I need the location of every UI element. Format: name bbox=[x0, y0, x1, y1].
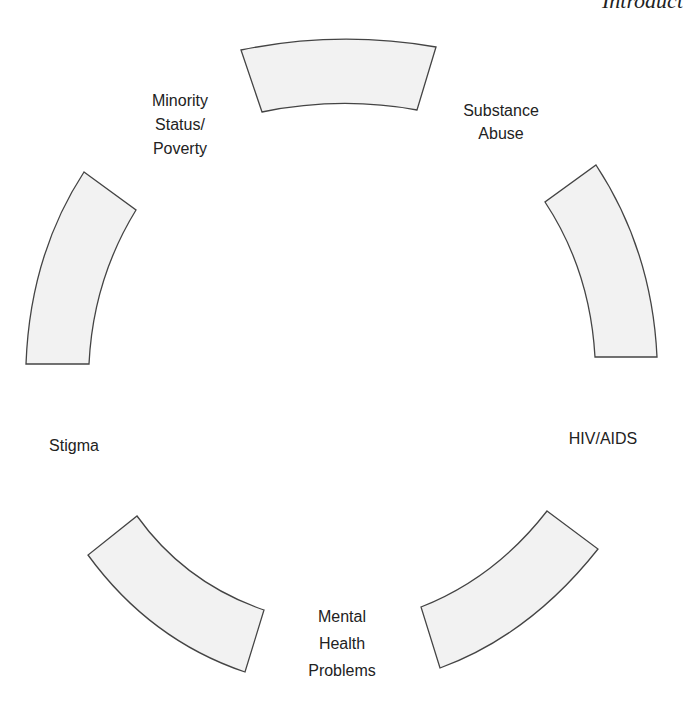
label-substance-abuse: Substance Abuse bbox=[445, 99, 557, 145]
label-hiv-aids: HIV/AIDS bbox=[553, 429, 653, 448]
arc-segment-bottom-left bbox=[88, 516, 264, 672]
cycle-diagram bbox=[0, 0, 683, 703]
arc-segment-bottom-right bbox=[421, 511, 598, 668]
label-mental-health-problems: Mental Health Problems bbox=[292, 603, 392, 684]
label-stigma: Stigma bbox=[30, 436, 118, 455]
arc-segment-left bbox=[26, 172, 136, 364]
arc-segment-top bbox=[241, 39, 436, 112]
arc-segment-right bbox=[545, 165, 657, 357]
label-minority-status-poverty: Minority Status/ Poverty bbox=[130, 89, 230, 161]
